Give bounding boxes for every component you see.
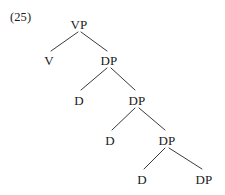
tree-node-d3: D [137,173,147,186]
tree-branch-lines [0,0,225,195]
tree-node-dp1: DP [100,54,117,67]
tree-node-dp3: DP [158,134,175,147]
tree-edge-vp-to-dp1 [81,32,107,51]
tree-edge-dp1-to-d1 [81,68,107,90]
tree-edge-vp-to-v [51,32,78,51]
tree-edge-dp3-to-d3 [144,148,165,169]
tree-node-d1: D [74,94,84,107]
syntax-tree-figure: (25) VPVDPDDPDDPDDP [0,0,225,195]
tree-node-vp: VP [70,18,87,31]
tree-edge-dp3-to-dp4 [169,148,202,169]
tree-node-dp2: DP [128,94,145,107]
tree-edge-dp2-to-d2 [112,108,135,130]
example-number-label: (25) [10,11,31,24]
tree-node-d2: D [105,134,115,147]
tree-node-dp4: DP [195,173,212,186]
tree-node-v: V [44,54,54,67]
tree-edge-dp2-to-dp3 [139,108,165,130]
tree-edge-dp1-to-dp2 [111,68,135,90]
